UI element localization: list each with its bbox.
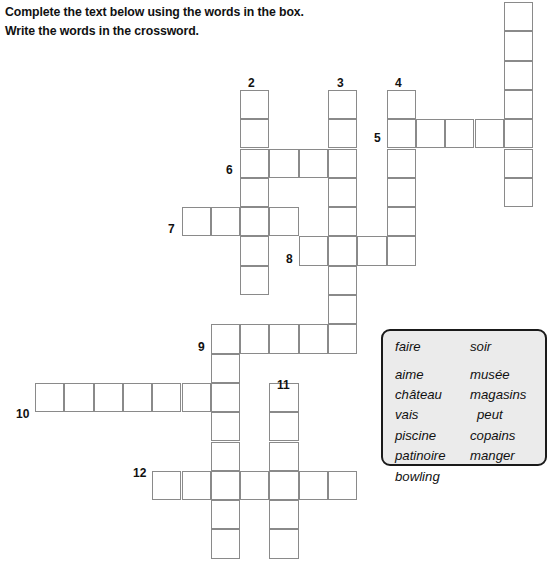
crossword-cell[interactable] [328,471,357,500]
word-bank-item: musée [470,368,545,381]
word-bank-item: manger [470,449,545,462]
crossword-cell[interactable] [387,178,416,207]
crossword-cell[interactable] [504,31,533,60]
clue-number-4: 4 [395,77,402,89]
crossword-cell[interactable] [299,471,328,500]
crossword-cell[interactable] [299,324,328,353]
clue-number-12: 12 [133,467,146,479]
word-bank-item: faire [395,340,470,353]
crossword-cell[interactable] [504,149,533,178]
crossword-cell[interactable] [211,442,240,471]
crossword-cell[interactable] [504,61,533,90]
crossword-cell[interactable] [35,383,64,412]
crossword-cell[interactable] [387,119,416,148]
crossword-cell[interactable] [182,383,211,412]
crossword-cell[interactable] [152,471,181,500]
crossword-cell[interactable] [182,207,211,236]
crossword-cell[interactable] [240,471,269,500]
crossword-cell[interactable] [211,383,240,412]
word-bank-item: patinoire [395,449,470,462]
crossword-cell[interactable] [416,119,445,148]
crossword-cell[interactable] [240,207,269,236]
word-bank-item: soir [470,340,545,353]
crossword-cell[interactable] [211,354,240,383]
crossword-cell[interactable] [328,149,357,178]
crossword-cell[interactable] [357,236,386,265]
crossword-cell[interactable] [211,500,240,529]
crossword-cell[interactable] [328,266,357,295]
crossword-cell[interactable] [123,383,152,412]
clue-number-8: 8 [286,253,293,265]
clue-number-9: 9 [198,341,205,353]
crossword-cell[interactable] [64,383,93,412]
crossword-cell[interactable] [269,529,298,558]
crossword-cell[interactable] [211,207,240,236]
crossword-cell[interactable] [240,90,269,119]
crossword-cell[interactable] [152,383,181,412]
crossword-cell[interactable] [387,207,416,236]
crossword-cell[interactable] [269,500,298,529]
crossword-cell[interactable] [504,90,533,119]
clue-number-10: 10 [16,408,29,420]
crossword-cell[interactable] [240,236,269,265]
crossword-cell[interactable] [328,178,357,207]
crossword-grid[interactable]: 23456789101112 [0,0,558,581]
crossword-cell[interactable] [240,324,269,353]
crossword-cell[interactable] [328,119,357,148]
crossword-cell[interactable] [269,149,298,178]
word-bank-box: faireaimechâteauvaispiscinepatinoirebowl… [381,329,547,466]
crossword-cell[interactable] [269,471,298,500]
crossword-cell[interactable] [240,266,269,295]
crossword-cell[interactable] [475,119,504,148]
crossword-cell[interactable] [211,324,240,353]
crossword-cell[interactable] [211,471,240,500]
crossword-cell[interactable] [269,324,298,353]
word-bank-item: piscine [395,429,470,442]
crossword-cell[interactable] [387,149,416,178]
crossword-cell[interactable] [504,178,533,207]
crossword-cell[interactable] [269,442,298,471]
crossword-cell[interactable] [328,236,357,265]
word-bank-column-left: faireaimechâteauvaispiscinepatinoirebowl… [395,340,470,464]
crossword-cell[interactable] [240,119,269,148]
clue-number-11: 11 [277,379,290,391]
crossword-cell[interactable] [182,471,211,500]
word-bank-item: vais [395,408,470,421]
word-bank-item: bowling [395,470,470,483]
word-bank-column-right: soirmuséemagasinspeutcopainsmanger [470,340,545,464]
crossword-cell[interactable] [328,207,357,236]
clue-number-3: 3 [337,77,344,89]
word-bank-item: aime [395,368,470,381]
clue-number-7: 7 [168,223,175,235]
word-bank-item: peut [470,408,545,421]
crossword-cell[interactable] [504,119,533,148]
crossword-cell[interactable] [328,90,357,119]
word-bank-item: copains [470,429,545,442]
word-bank-item: magasins [470,388,545,401]
crossword-cell[interactable] [328,324,357,353]
crossword-cell[interactable] [240,149,269,178]
crossword-cell[interactable] [387,90,416,119]
crossword-cell[interactable] [211,412,240,441]
crossword-cell[interactable] [269,412,298,441]
crossword-cell[interactable] [299,236,328,265]
word-bank-item: château [395,388,470,401]
clue-number-5: 5 [374,132,381,144]
crossword-cell[interactable] [328,295,357,324]
crossword-cell[interactable] [269,207,298,236]
crossword-cell[interactable] [387,236,416,265]
crossword-cell[interactable] [504,2,533,31]
crossword-cell[interactable] [445,119,474,148]
clue-number-6: 6 [226,164,233,176]
crossword-cell[interactable] [299,149,328,178]
clue-number-2: 2 [248,77,255,89]
crossword-cell[interactable] [94,383,123,412]
crossword-cell[interactable] [240,178,269,207]
crossword-cell[interactable] [211,529,240,558]
